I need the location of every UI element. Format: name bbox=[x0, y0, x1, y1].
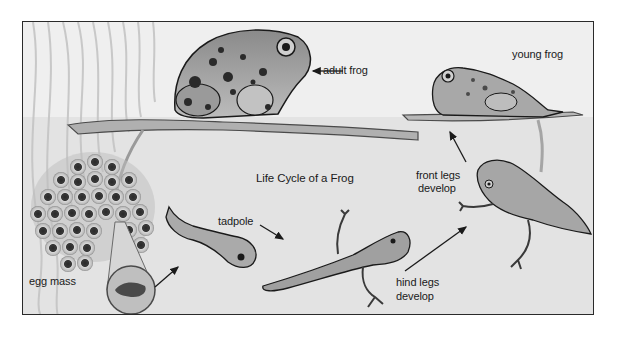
label-front-legs-line1: front legs bbox=[416, 169, 460, 182]
label-adult-frog: adult frog bbox=[323, 64, 368, 77]
label-hind-legs-line2: develop bbox=[396, 290, 434, 303]
label-young-frog: young frog bbox=[512, 48, 563, 61]
label-tadpole: tadpole bbox=[218, 215, 253, 228]
label-front-legs-line2: develop bbox=[418, 182, 456, 195]
diagram-frame: adult frog young frog Life Cycle of a Fr… bbox=[22, 21, 594, 315]
label-hind-legs-line1: hind legs bbox=[396, 276, 439, 289]
life-cycle-illustration bbox=[23, 22, 594, 315]
label-egg-mass: egg mass bbox=[29, 275, 76, 288]
diagram-title: Life Cycle of a Frog bbox=[256, 172, 354, 185]
